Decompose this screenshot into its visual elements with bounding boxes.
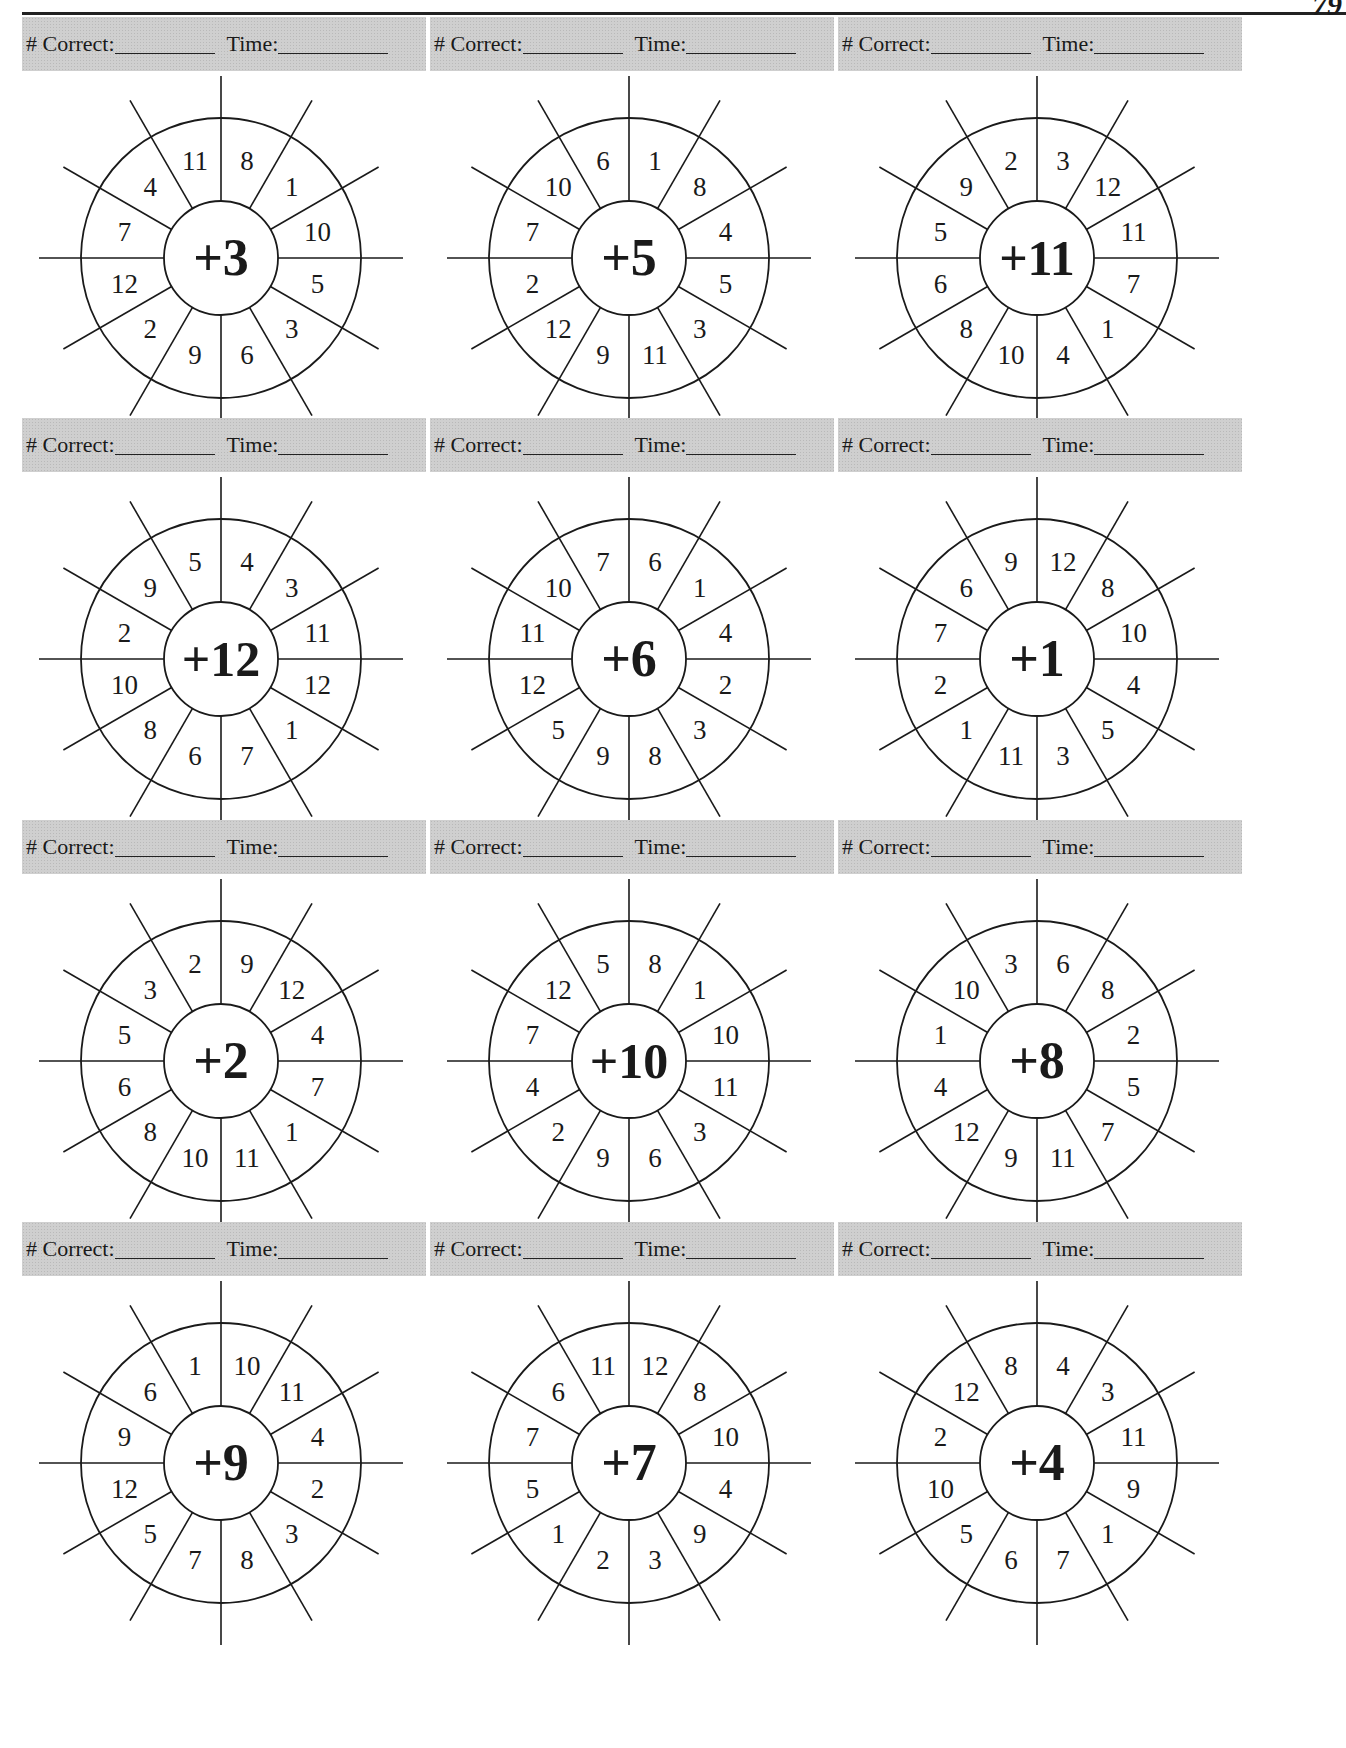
wheel-number: 7	[526, 1020, 540, 1050]
wheel-number: 9	[693, 1519, 707, 1549]
time-blank[interactable]	[686, 35, 796, 54]
spoke-line	[538, 708, 601, 816]
correct-blank[interactable]	[115, 838, 215, 857]
wheel-number: 2	[1004, 146, 1018, 176]
time-blank[interactable]	[1094, 35, 1204, 54]
time-blank[interactable]	[278, 838, 388, 857]
correct-blank[interactable]	[523, 436, 623, 455]
wheel-number: 5	[1127, 1072, 1141, 1102]
wheel-number: 2	[552, 1117, 566, 1147]
time-blank[interactable]	[278, 1240, 388, 1259]
spoke-line	[538, 1110, 601, 1218]
wheel-number: 12	[953, 1117, 980, 1147]
correct-label: # Correct:	[842, 432, 931, 458]
spoke-line	[658, 100, 721, 208]
score-bar: # Correct:Time:	[430, 1222, 834, 1276]
correct-label: # Correct:	[26, 432, 115, 458]
addition-wheel-3: # Correct:Time:312117141086592+11	[838, 17, 1258, 457]
spoke-line	[658, 708, 721, 816]
wheel-number: 8	[144, 715, 158, 745]
wheel-number: 4	[1127, 670, 1141, 700]
wheel-number: 7	[934, 618, 948, 648]
correct-blank[interactable]	[931, 1240, 1031, 1259]
wheel-number: 11	[1121, 217, 1147, 247]
wheel-number: 1	[1101, 314, 1115, 344]
wheel-number: 9	[596, 741, 610, 771]
wheel-number: 3	[144, 975, 158, 1005]
wheel-number: 8	[240, 146, 254, 176]
correct-label: # Correct:	[26, 834, 115, 860]
wheel-number: 8	[1101, 975, 1115, 1005]
wheel-number: 7	[311, 1072, 325, 1102]
time-blank[interactable]	[686, 436, 796, 455]
wheel-number: 9	[1127, 1474, 1141, 1504]
wheel-number: 11	[182, 146, 208, 176]
wheel-number: 11	[1121, 1422, 1147, 1452]
wheel-number: 6	[118, 1072, 131, 1102]
spoke-line	[658, 1110, 721, 1218]
wheel-number: 3	[1004, 949, 1018, 979]
correct-blank[interactable]	[931, 35, 1031, 54]
wheel-number: 12	[111, 1474, 138, 1504]
time-blank[interactable]	[1094, 436, 1204, 455]
wheel-number: 5	[311, 269, 325, 299]
correct-label: # Correct:	[434, 1236, 523, 1262]
time-label: Time:	[635, 31, 687, 57]
wheel-diagram: 184531191227106+5	[430, 71, 834, 451]
wheel-number: 4	[144, 172, 158, 202]
top-rule	[22, 12, 1346, 15]
wheel-number: 7	[188, 1545, 202, 1575]
correct-blank[interactable]	[931, 436, 1031, 455]
spoke-line	[130, 501, 193, 609]
wheel-number: 5	[934, 217, 948, 247]
wheel-number: 9	[960, 172, 974, 202]
correct-blank[interactable]	[115, 1240, 215, 1259]
time-blank[interactable]	[278, 35, 388, 54]
correct-blank[interactable]	[523, 838, 623, 857]
time-label: Time:	[227, 834, 279, 860]
score-bar: # Correct:Time:	[838, 820, 1242, 874]
time-label: Time:	[1043, 432, 1095, 458]
wheel-number: 3	[1056, 146, 1070, 176]
score-bar: # Correct:Time:	[22, 418, 426, 472]
wheel-diagram: 431112176810295+12	[22, 472, 426, 852]
spoke-line	[946, 501, 1009, 609]
wheel-number: 6	[188, 741, 202, 771]
addition-wheel-2: # Correct:Time:184531191227106+5	[430, 17, 850, 457]
time-label: Time:	[227, 432, 279, 458]
addend-label: +6	[601, 630, 657, 687]
wheel-number: 9	[596, 340, 610, 370]
wheel-number: 4	[934, 1072, 948, 1102]
time-blank[interactable]	[686, 1240, 796, 1259]
time-blank[interactable]	[278, 436, 388, 455]
wheel-number: 10	[233, 1351, 260, 1381]
wheel-number: 3	[693, 1117, 707, 1147]
time-blank[interactable]	[1094, 1240, 1204, 1259]
score-bar: # Correct:Time:	[430, 418, 834, 472]
time-blank[interactable]	[1094, 838, 1204, 857]
wheel-number: 12	[519, 670, 546, 700]
wheel-number: 6	[648, 1143, 662, 1173]
correct-blank[interactable]	[523, 35, 623, 54]
correct-blank[interactable]	[115, 35, 215, 54]
wheel-number: 3	[1101, 1377, 1115, 1407]
time-label: Time:	[635, 432, 687, 458]
spoke-line	[1066, 708, 1129, 816]
wheel-number: 4	[1056, 1351, 1070, 1381]
correct-label: # Correct:	[434, 432, 523, 458]
correct-blank[interactable]	[115, 436, 215, 455]
spoke-line	[1066, 307, 1129, 415]
score-bar: # Correct:Time:	[838, 17, 1242, 71]
wheel-number: 5	[960, 1519, 974, 1549]
correct-blank[interactable]	[931, 838, 1031, 857]
addend-label: +12	[182, 631, 261, 687]
addend-label: +11	[999, 230, 1075, 286]
wheel-number: 2	[719, 670, 733, 700]
wheel-number: 3	[693, 715, 707, 745]
wheel-number: 12	[1049, 547, 1076, 577]
wheel-number: 5	[1101, 715, 1115, 745]
time-blank[interactable]	[686, 838, 796, 857]
wheel-number: 11	[279, 1377, 305, 1407]
correct-blank[interactable]	[523, 1240, 623, 1259]
wheel-number: 12	[953, 1377, 980, 1407]
